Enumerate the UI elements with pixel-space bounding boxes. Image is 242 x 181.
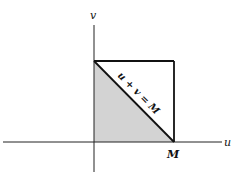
diagram-canvas: v u M u + v = M [0,0,242,181]
u-axis-label: u [224,136,231,149]
v-axis-label: v [90,9,97,22]
m-label: M [166,148,180,161]
